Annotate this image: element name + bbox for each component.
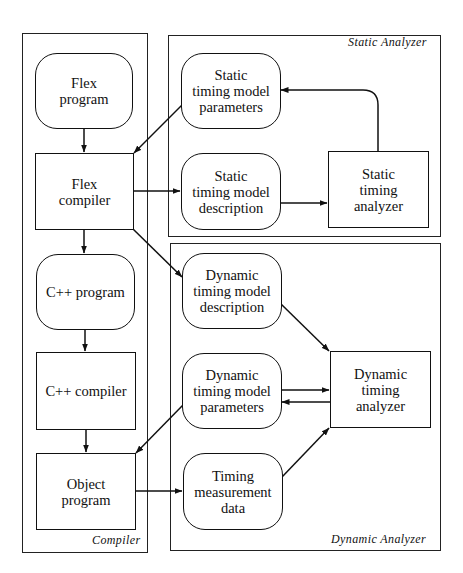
edge-timing-data-to-dynamic-analyzer [282, 428, 329, 477]
edge-dynamic-params-to-object-program [136, 405, 183, 453]
node-flex-program-label: Flex program [59, 75, 108, 107]
node-cpp-compiler-label: C++ compiler [45, 383, 126, 399]
node-dynamic-timing-model-description: Dynamic timing model description [182, 253, 282, 329]
node-cpp-compiler: C++ compiler [36, 352, 136, 430]
node-dynamic-timing-analyzer: Dynamic timing analyzer [330, 351, 431, 428]
node-object-program: Object program [36, 453, 136, 530]
node-static-analyzer-label: Static timing analyzer [354, 166, 403, 214]
node-flex-compiler-label: Flex compiler [59, 176, 111, 208]
node-dynamic-timing-model-parameters: Dynamic timing model parameters [182, 353, 282, 429]
edge-static-analyzer-to-static-params [281, 90, 378, 151]
edge-dynamic-description-to-dynamic-analyzer [281, 304, 329, 351]
node-flex-compiler: Flex compiler [35, 153, 134, 230]
node-static-timing-analyzer: Static timing analyzer [328, 151, 429, 228]
node-static-params-label: Static timing model parameters [192, 67, 270, 115]
node-static-timing-model-description: Static timing model description [181, 153, 281, 230]
node-dynamic-params-label: Dynamic timing model parameters [193, 367, 271, 415]
node-object-program-label: Object program [61, 476, 110, 508]
node-static-description-label: Static timing model description [192, 168, 270, 216]
node-static-timing-model-parameters: Static timing model parameters [181, 53, 281, 129]
node-timing-measurement-data: Timing measurement data [183, 453, 283, 530]
node-dynamic-description-label: Dynamic timing model description [193, 267, 271, 315]
node-dynamic-analyzer-label: Dynamic timing analyzer [354, 366, 407, 414]
node-flex-program: Flex program [35, 53, 133, 129]
edge-static-params-to-flex-compiler [134, 105, 182, 153]
node-cpp-program-label: C++ program [46, 284, 125, 300]
node-timing-data-label: Timing measurement data [194, 468, 271, 516]
node-cpp-program: C++ program [36, 254, 135, 330]
edge-flex-compiler-to-dynamic-description [133, 229, 182, 277]
